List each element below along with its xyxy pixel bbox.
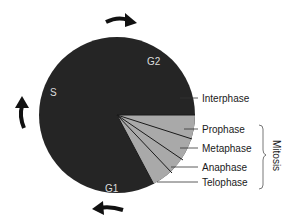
g1-phase-label: G1 xyxy=(105,183,118,195)
mitosis-group-label: Mitosis xyxy=(270,140,282,171)
prophase-label: Prophase xyxy=(202,124,245,136)
s-phase-label: S xyxy=(50,87,57,99)
telophase-label: Telophase xyxy=(202,177,248,189)
left-arrow-icon xyxy=(15,96,29,128)
bottom-arrow-icon xyxy=(92,201,123,215)
top-arrow-icon xyxy=(106,13,137,27)
anaphase-label: Anaphase xyxy=(202,162,247,174)
mitosis-brace xyxy=(259,125,266,189)
metaphase-label: Metaphase xyxy=(202,143,251,155)
interphase-label: Interphase xyxy=(202,93,249,105)
g2-phase-label: G2 xyxy=(147,56,160,68)
cell-cycle-diagram xyxy=(0,0,292,224)
